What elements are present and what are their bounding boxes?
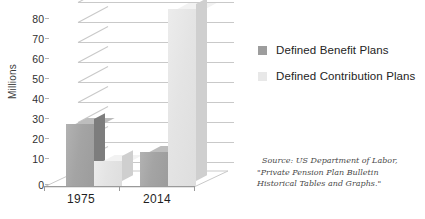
y-tick-10: 10 <box>18 154 44 164</box>
bar-side-face <box>196 0 207 181</box>
gridline-60 <box>78 62 234 63</box>
x-tick-mark-middle <box>119 186 120 191</box>
source-note-line-3: Historical Tables and Graphs." <box>257 178 422 190</box>
x-tick-mark-left <box>44 186 45 191</box>
gridline-riser <box>78 86 108 103</box>
source-note-line-2: "Private Pension Plan Bulletin <box>257 167 422 179</box>
y-axis-title: Millions <box>7 50 18 114</box>
legend-item-defined-benefit[interactable]: Defined Benefit Plans <box>258 44 415 56</box>
pension-plan-bar-chart: Millions 80 70 60 50 40 30 20 10 0 <box>0 0 425 219</box>
legend-swatch-defined-contribution <box>258 72 267 81</box>
source-note-line-1: Source: US Department of Labor, <box>262 155 422 167</box>
legend-item-defined-contribution[interactable]: Defined Contribution Plans <box>258 70 415 82</box>
plot-area <box>44 2 234 186</box>
bar-2014-defined-benefit <box>140 152 168 187</box>
bar-front-face <box>140 152 168 187</box>
gridline-80 <box>78 22 234 23</box>
y-tick-40: 40 <box>18 94 44 104</box>
figure-caption <box>4 211 422 219</box>
y-tick-30: 30 <box>18 114 44 124</box>
chart-legend: Defined Benefit Plans Defined Contributi… <box>258 44 415 96</box>
x-tick-label-2014: 2014 <box>128 192 186 206</box>
bar-1975-defined-contribution <box>94 161 122 186</box>
legend-label-defined-benefit: Defined Benefit Plans <box>276 44 389 56</box>
gridline-riser <box>78 26 108 43</box>
y-tick-70: 70 <box>18 34 44 44</box>
bar-front-face <box>168 9 196 186</box>
y-tick-20: 20 <box>18 134 44 144</box>
gridline-riser <box>78 6 108 23</box>
y-tick-80: 80 <box>18 14 44 24</box>
gridline-riser <box>78 46 108 63</box>
bar-front-face <box>94 161 122 186</box>
gridline-riser <box>78 0 108 3</box>
gridline-50 <box>78 82 234 83</box>
gridline-riser <box>78 66 108 83</box>
x-tick-label-1975: 1975 <box>52 192 110 206</box>
gridline-70 <box>78 42 234 43</box>
y-tick-50: 50 <box>18 74 44 84</box>
gridline-40 <box>78 102 234 103</box>
legend-label-defined-contribution: Defined Contribution Plans <box>276 70 415 82</box>
y-axis-tick-labels: 80 70 60 50 40 30 20 10 0 <box>18 0 44 190</box>
bar-1975-defined-benefit <box>66 124 94 186</box>
bar-2014-defined-contribution <box>168 9 196 186</box>
y-tick-0: 0 <box>18 180 44 190</box>
y-tick-60: 60 <box>18 54 44 64</box>
legend-swatch-defined-benefit <box>258 46 267 55</box>
source-note: Source: US Department of Labor, "Private… <box>262 155 422 190</box>
bar-side-face <box>122 150 133 181</box>
bar-front-face <box>66 124 94 186</box>
x-tick-mark-right <box>194 186 195 191</box>
